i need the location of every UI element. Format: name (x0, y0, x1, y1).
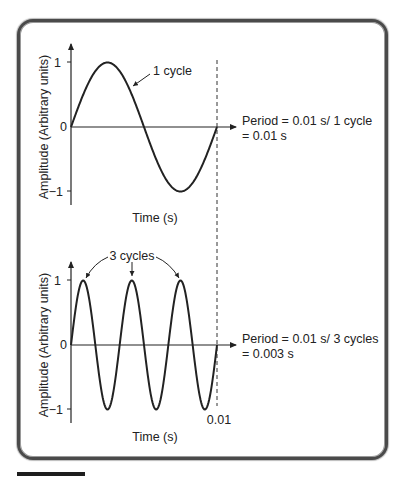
three-cycles-label: 3 cycles (109, 249, 154, 263)
footer-rule (17, 472, 85, 476)
bottom-period-line1: Period = 0.01 s/ 3 cycles (242, 332, 379, 346)
waveform-diagram: 1 0 −1 Amplitude (Arbitrary units) Time … (0, 0, 408, 479)
bottom-tick-0: 0 (60, 338, 67, 352)
three-cycles-arrow-right (156, 257, 179, 278)
top-period-line1: Period = 0.01 s/ 1 cycle (242, 114, 372, 128)
one-cycle-arrow (133, 74, 150, 86)
three-cycles-arrow-left (86, 257, 108, 278)
bottom-y-axis-label: Amplitude (Arbitrary units) (37, 273, 51, 418)
top-panel: 1 0 −1 Amplitude (Arbitrary units) Time … (37, 44, 372, 225)
top-x-axis-label: Time (s) (132, 211, 177, 225)
bottom-tick-1: 1 (54, 274, 61, 288)
top-tick-1: 1 (54, 56, 61, 70)
top-y-axis-label: Amplitude (Arbitrary units) (37, 55, 51, 200)
bottom-period-line2: = 0.003 s (242, 347, 294, 361)
one-cycle-label: 1 cycle (153, 64, 192, 78)
top-tick-0: 0 (60, 120, 67, 134)
top-period-line2: = 0.01 s (242, 129, 287, 143)
bottom-panel: 1 0 −1 Amplitude (Arbitrary units) Time … (37, 249, 379, 444)
bottom-x-tick-0.01: 0.01 (207, 413, 231, 427)
bottom-x-axis-label: Time (s) (132, 430, 177, 444)
